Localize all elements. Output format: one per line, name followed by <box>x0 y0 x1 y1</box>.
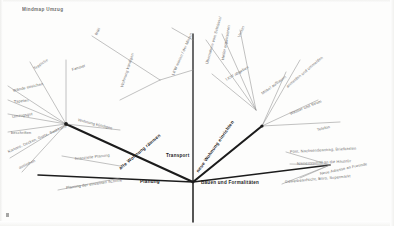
twig-wohnung-kuendigen-trunk <box>120 80 160 100</box>
branch-label-transport: Transport <box>166 154 189 159</box>
twig-teppiche <box>30 62 66 124</box>
mindmap-drawing <box>0 0 394 226</box>
corner-mark <box>6 213 9 217</box>
hub-node-right <box>260 124 263 127</box>
branch-label-bauen: Bauen und Formalitäten <box>201 181 259 186</box>
mindmap-canvas: Mindmap Umzug MüllFensterTeppicheWände s… <box>0 0 394 226</box>
twig-anmelden <box>262 60 300 126</box>
page-title: Mindmap Umzug <box>22 7 63 12</box>
hub-nodes <box>64 122 264 183</box>
branch-label-planung: Planung <box>140 180 160 185</box>
leaf-label-6: beschriften <box>11 131 31 135</box>
hub-node-center <box>192 181 195 184</box>
branch-neue-wohnung <box>193 126 262 182</box>
